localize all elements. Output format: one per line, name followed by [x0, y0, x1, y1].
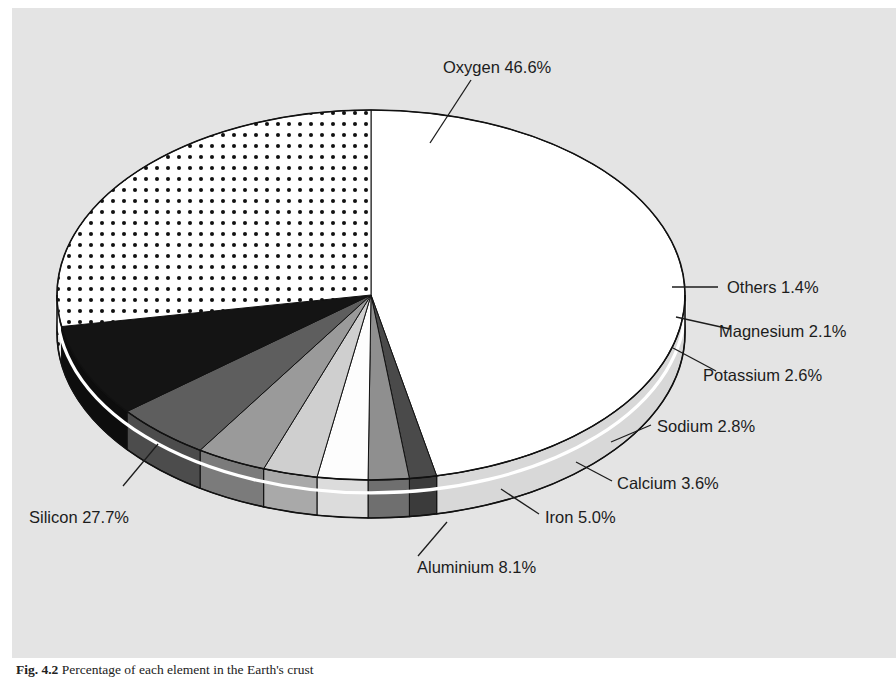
label-sodium: Sodium 2.8% — [657, 417, 755, 435]
figure-caption-strip: Fig. 4.2 Percentage of each element in t… — [12, 662, 896, 684]
pie-slice-silicon — [57, 110, 371, 327]
figure-caption: Fig. 4.2 Percentage of each element in t… — [16, 662, 313, 678]
pie-side-magnesium — [368, 479, 409, 518]
label-oxygen: Oxygen 46.6% — [443, 58, 552, 76]
figure-number: Fig. 4.2 — [16, 662, 58, 677]
pie-top-faces — [57, 110, 685, 480]
pie-side-others — [409, 476, 436, 517]
label-iron: Iron 5.0% — [545, 508, 616, 526]
leader-line-aluminium — [418, 522, 447, 556]
label-calcium: Calcium 3.6% — [617, 474, 719, 492]
pie-side-potassium — [317, 477, 368, 518]
figure-container: Oxygen 46.6% Others 1.4% Magnesium 2.1% … — [0, 0, 896, 684]
label-silicon: Silicon 27.7% — [29, 508, 129, 526]
pie-chart-3d: Oxygen 46.6% Others 1.4% Magnesium 2.1% … — [0, 0, 896, 684]
label-magnesium: Magnesium 2.1% — [719, 322, 847, 340]
leader-line-calcium — [576, 462, 612, 481]
label-others: Others 1.4% — [727, 278, 819, 296]
label-potassium: Potassium 2.6% — [703, 366, 823, 384]
figure-caption-text: Percentage of each element in the Earth'… — [62, 662, 314, 677]
label-aluminium: Aluminium 8.1% — [417, 558, 537, 576]
